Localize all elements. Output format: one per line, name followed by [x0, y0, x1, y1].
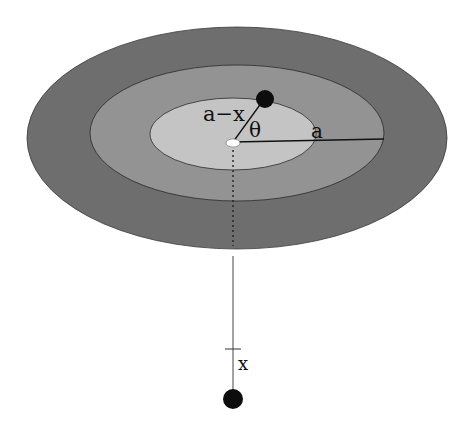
ring-diagram: a−x θ a x: [0, 0, 470, 432]
mass-top: [256, 90, 274, 108]
mass-bottom: [223, 389, 243, 409]
label-theta: θ: [249, 118, 261, 142]
center-marker: [226, 139, 240, 147]
label-a-minus-x: a−x: [203, 102, 245, 126]
label-a: a: [311, 119, 323, 143]
label-x: x: [238, 353, 248, 374]
